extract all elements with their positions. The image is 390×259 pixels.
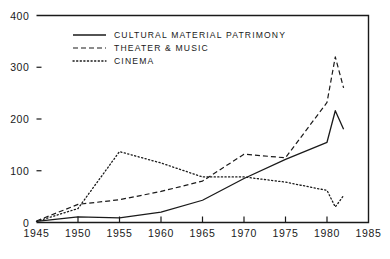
x-tick-label-1960: 1960 [148,227,174,239]
legend-label-1: THEATER & MUSIC [114,43,209,53]
chart-canvas: 0100200300400 19451950195519601965197019… [0,0,390,259]
y-tick-label-200: 200 [10,113,29,125]
line-chart-figure: 0100200300400 19451950195519601965197019… [0,0,390,259]
chart-legend: CULTURAL MATERIAL PATRIMONYTHEATER & MUS… [73,30,286,66]
legend-label-2: CINEMA [114,56,154,66]
x-tick-label-1945: 1945 [24,227,50,239]
series-line-dashed [37,57,344,221]
y-axis-tick-labels: 0100200300400 [10,10,29,229]
x-tick-label-1965: 1965 [190,227,216,239]
legend-label-0: CULTURAL MATERIAL PATRIMONY [114,30,286,40]
y-tick-label-400: 400 [10,10,29,22]
x-tick-label-1985: 1985 [356,227,382,239]
x-tick-label-1975: 1975 [273,227,299,239]
x-tick-label-1955: 1955 [107,227,133,239]
y-tick-label-100: 100 [10,165,29,177]
series-line-solid [37,111,344,222]
x-tick-label-1950: 1950 [65,227,91,239]
x-axis-tick-labels: 194519501955196019651970197519801985 [24,227,382,239]
y-tick-label-300: 300 [10,61,29,73]
series-line-dotted [37,152,344,222]
x-tick-label-1970: 1970 [231,227,257,239]
data-series-group [37,57,344,222]
y-axis-ticks [37,67,42,171]
x-tick-label-1980: 1980 [314,227,340,239]
